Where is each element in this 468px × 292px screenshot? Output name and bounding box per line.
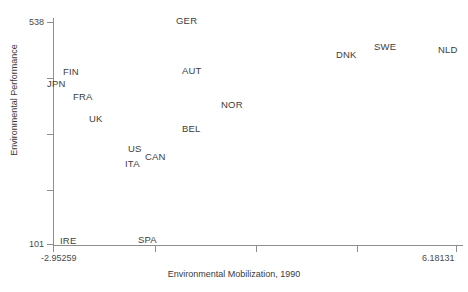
data-point-label: NLD	[438, 45, 458, 55]
data-point-label: SWE	[374, 42, 396, 52]
x-axis-line	[53, 245, 463, 246]
data-point-label: UK	[89, 114, 103, 124]
y-axis-line	[53, 18, 54, 246]
y-tick-label: 538	[29, 18, 44, 27]
data-point-label: FIN	[63, 67, 79, 77]
x-tick-mark	[155, 246, 156, 252]
x-tick-mark	[256, 246, 257, 252]
x-tick-mark	[456, 246, 457, 252]
x-tick-mark	[53, 246, 54, 252]
data-point-label: FRA	[73, 92, 93, 102]
data-point-label: JPN	[47, 79, 66, 89]
y-tick-mark	[47, 190, 53, 191]
x-axis-title: Environmental Mobilization, 1990	[0, 269, 468, 279]
y-axis-title: Environmental Performance	[9, 20, 19, 180]
data-point-label: SPA	[138, 235, 157, 245]
x-tick-mark	[357, 246, 358, 252]
y-tick-mark	[47, 134, 53, 135]
y-tick-label: 101	[29, 240, 44, 249]
scatter-plot: 538101 -2.952596.18131 GERSWENLDDNKFINJP…	[0, 0, 468, 292]
x-tick-label: -2.95259	[41, 254, 77, 263]
data-point-label: GER	[176, 16, 197, 26]
data-point-label: NOR	[221, 100, 243, 110]
data-point-label: US	[128, 144, 142, 154]
data-point-label: BEL	[182, 124, 201, 134]
y-tick-mark	[47, 244, 53, 245]
data-point-label: DNK	[336, 50, 357, 60]
data-point-label: ITA	[125, 159, 140, 169]
data-point-label: AUT	[182, 66, 202, 76]
y-tick-mark	[47, 22, 53, 23]
data-point-label: CAN	[145, 152, 166, 162]
data-point-label: IRE	[60, 236, 76, 246]
x-tick-label: 6.18131	[422, 254, 455, 263]
